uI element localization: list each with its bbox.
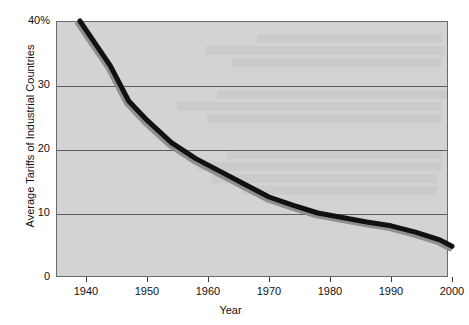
x-tick-label-2000: 2000 [422,286,469,297]
x-tick-mark-1950 [147,277,148,282]
bleedthrough-row [257,34,442,43]
x-tick-label-1940: 1940 [56,286,116,297]
x-tick-mark-1940 [86,277,87,282]
gridline-30 [57,86,447,87]
x-tick-mark-2000 [452,277,453,282]
gridline-10 [57,214,447,215]
x-tick-label-1950: 1950 [117,286,177,297]
x-tick-mark-1970 [269,277,270,282]
bleedthrough-row [227,150,442,159]
x-tick-mark-1960 [208,277,209,282]
bleedthrough-row [232,58,442,67]
x-tick-label-1990: 1990 [361,286,421,297]
bleedthrough-row [217,90,447,99]
gridline-20 [57,150,447,151]
bleedthrough-row [205,46,445,55]
y-tick-label-0: 0 [0,271,50,282]
x-tick-mark-1980 [330,277,331,282]
x-tick-label-1960: 1960 [178,286,238,297]
x-axis-title: Year [0,304,461,316]
bleedthrough-row [177,102,442,111]
bleedthrough-row [242,186,437,195]
y-axis-title: Average Tariffs of Industrial Countries [24,21,36,251]
x-tick-mark-1990 [391,277,392,282]
bleedthrough-row [197,162,442,171]
x-tick-label-1980: 1980 [300,286,360,297]
plot-area [56,21,448,277]
bleedthrough-row [212,174,437,183]
x-tick-label-1970: 1970 [239,286,299,297]
bleedthrough-row [207,114,442,123]
